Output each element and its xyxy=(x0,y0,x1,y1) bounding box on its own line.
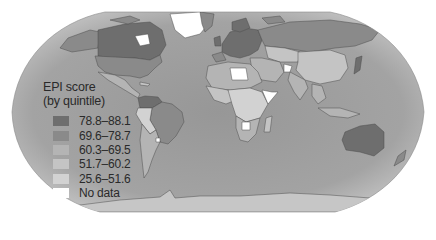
legend-label: No data xyxy=(79,186,120,200)
canada xyxy=(98,22,166,60)
legend-item: No data xyxy=(43,186,131,200)
legend-swatch xyxy=(53,145,69,155)
china xyxy=(296,50,348,84)
legend-label: 78.8–88.1 xyxy=(79,114,131,128)
legend-item: 51.7–60.2 xyxy=(43,157,131,171)
legend-label: 25.6–51.6 xyxy=(79,172,131,186)
legend-label: 69.6–78.7 xyxy=(79,129,131,143)
legend-swatch xyxy=(53,131,69,141)
legend-items: 78.8–88.1 69.6–78.7 60.3–69.5 51.7–60.2 … xyxy=(43,114,131,200)
botswana xyxy=(242,122,250,130)
legend-swatch xyxy=(53,188,69,198)
legend-item: 69.6–78.7 xyxy=(43,128,131,142)
legend-subtitle: (by quintile) xyxy=(43,94,131,108)
uruguay xyxy=(156,138,160,142)
legend-label: 51.7–60.2 xyxy=(79,157,131,171)
libya xyxy=(230,68,248,80)
legend-item: 78.8–88.1 xyxy=(43,114,131,128)
legend-item: 25.6–51.6 xyxy=(43,172,131,186)
legend-swatch xyxy=(53,116,69,126)
legend: EPI score (by quintile) 78.8–88.1 69.6–7… xyxy=(43,80,131,200)
legend-item: 60.3–69.5 xyxy=(43,143,131,157)
legend-swatch xyxy=(53,159,69,169)
uk xyxy=(214,36,221,46)
legend-swatch xyxy=(53,174,69,184)
legend-title: EPI score xyxy=(43,80,131,94)
legend-label: 60.3–69.5 xyxy=(79,143,131,157)
